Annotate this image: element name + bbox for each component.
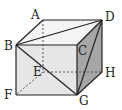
label-A: A (30, 8, 40, 22)
label-B: B (4, 39, 13, 53)
cube-figure: A D B C E H F G (0, 0, 122, 110)
label-G: G (79, 94, 89, 108)
label-F: F (4, 88, 12, 102)
label-D: D (105, 10, 115, 24)
label-H: H (105, 66, 115, 80)
label-E: E (33, 65, 42, 79)
cube-diagram: A D B C E H F G (0, 0, 122, 110)
label-C: C (78, 44, 87, 58)
